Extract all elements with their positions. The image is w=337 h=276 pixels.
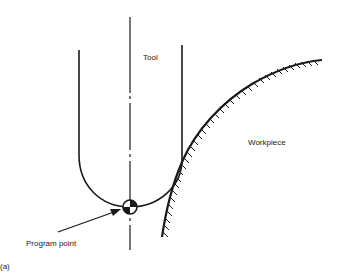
tool-label: Tool [143,54,158,62]
program-point-arrow [58,209,121,232]
tool-workpiece-diagram [0,0,337,276]
workpiece-hatching [163,60,318,237]
workpiece-label: Workpiece [248,139,286,147]
panel-label: (a) [0,263,10,271]
workpiece-surface [162,60,322,237]
program-point-label: Program point [26,240,76,248]
program-point-marker [123,200,137,214]
